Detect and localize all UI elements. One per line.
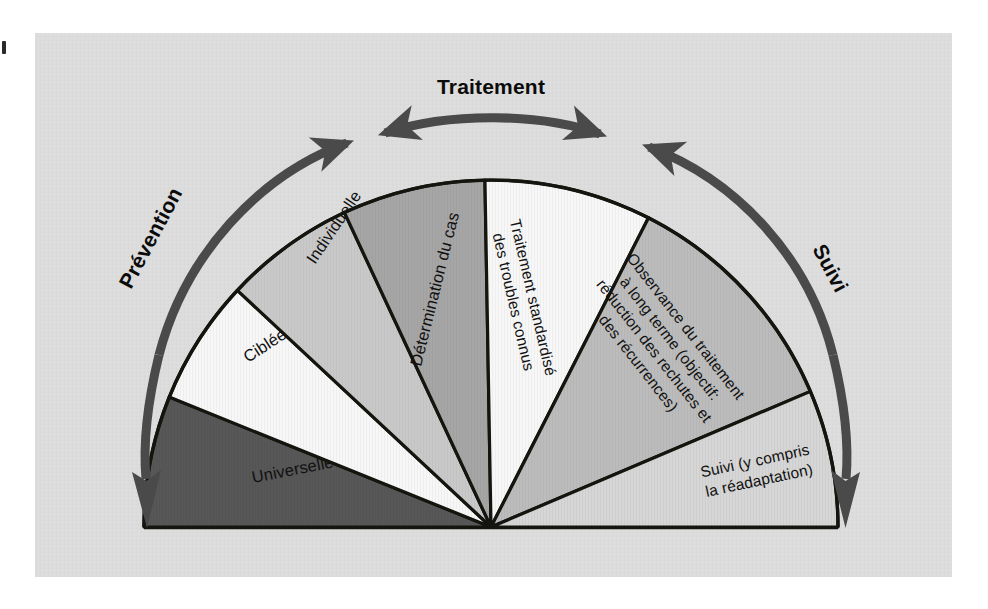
scan-artifact-speck — [2, 41, 6, 54]
care-continuum-wheel-diagram: Universelle Ciblée Individuelle Détermin… — [0, 0, 988, 609]
phase-label-traitement: Traitement — [437, 75, 545, 98]
figure-root: Universelle Ciblée Individuelle Détermin… — [0, 0, 988, 609]
